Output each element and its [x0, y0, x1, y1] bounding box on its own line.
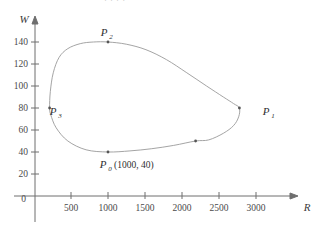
x-axis-label: R [303, 201, 311, 213]
origin-label: 0 [21, 194, 26, 204]
data-point-marker-P1 [238, 107, 241, 110]
y-tick-label-40: 40 [19, 147, 29, 157]
chart-figure: · · · · 500 [0, 0, 315, 233]
data-point-marker-P2 [107, 41, 110, 44]
x-tick-label-2500: 2500 [210, 203, 229, 213]
y-axis-arrow [32, 16, 38, 24]
chart-canvas: 500 1000 1500 2000 2500 3000 20 40 60 80… [0, 0, 315, 233]
x-tick-label-1000: 1000 [99, 203, 118, 213]
y-axis-label: W [19, 13, 29, 25]
point-label-P1-base: P [262, 105, 270, 117]
y-tick-label-80: 80 [19, 103, 29, 113]
y-tick-label-120: 120 [14, 59, 29, 69]
point-label-P0-base: P [99, 158, 107, 170]
data-point-marker-P0 [107, 151, 110, 154]
x-tick-label-500: 500 [64, 203, 79, 213]
point-label-P0-sub: 0 [108, 165, 112, 173]
point-label-P2: P 2 [100, 26, 114, 41]
x-tick-label-3000: 3000 [247, 203, 266, 213]
y-tick-label-60: 60 [19, 125, 29, 135]
x-tick-label-1500: 1500 [136, 203, 155, 213]
data-point-marker-unlabeled-marker [194, 140, 197, 143]
y-tick-label-100: 100 [14, 81, 29, 91]
axes-group [14, 16, 298, 222]
point-label-P0: P 0 (1000, 40) [99, 158, 154, 173]
data-curve [50, 42, 240, 152]
x-axis-arrow [290, 193, 298, 199]
y-tick-label-20: 20 [19, 169, 29, 179]
point-label-P2-base: P [100, 26, 108, 38]
point-label-P3: P 3 [49, 105, 63, 120]
point-label-P0-coord: (1000, 40) [114, 160, 154, 171]
point-label-P3-sub: 3 [57, 112, 62, 120]
x-tick-label-2000: 2000 [173, 203, 192, 213]
data-markers [48, 41, 241, 154]
point-label-P1: P 1 [262, 105, 275, 120]
point-label-P1-sub: 1 [271, 112, 275, 120]
point-label-P3-base: P [49, 105, 57, 117]
y-tick-label-140: 140 [14, 37, 29, 47]
point-label-P2-sub: 2 [109, 33, 113, 41]
